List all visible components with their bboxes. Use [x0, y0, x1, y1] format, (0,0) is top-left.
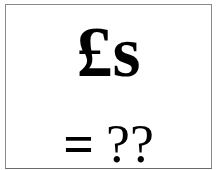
unknown-value: ?? [106, 114, 154, 170]
currency-heading: £s [6, 16, 211, 88]
equation-line: =?? [6, 117, 211, 170]
sign-frame: £s =?? [5, 4, 212, 169]
equals-sign: = [63, 114, 94, 170]
